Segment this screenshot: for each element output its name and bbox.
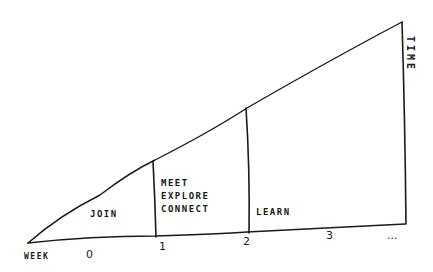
phase-meet-explore-connect-label: MEET EXPLORE CONNECT: [161, 177, 209, 216]
divider-week-2: [246, 108, 249, 233]
axis-x-label: WEEK: [24, 252, 49, 261]
tick-2: 2: [243, 235, 250, 248]
phase-join-label: JOIN: [90, 208, 118, 221]
divider-week-1: [153, 161, 156, 237]
tick-0: 0: [86, 248, 93, 261]
phase-meet-line: MEET: [161, 177, 209, 190]
tick-1: 1: [159, 240, 166, 253]
phase-explore-line: EXPLORE: [161, 190, 209, 203]
phase-connect-line: CONNECT: [161, 203, 209, 216]
tick-ellipsis: ...: [387, 229, 398, 242]
baseline: [28, 224, 405, 243]
axis-y-label: TIME: [405, 36, 416, 72]
phase-learn-label: LEARN: [256, 206, 291, 219]
timeline-wedge-diagram: [0, 0, 433, 272]
tick-3: 3: [326, 229, 333, 242]
hypotenuse: [28, 22, 402, 243]
